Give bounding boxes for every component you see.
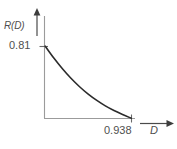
rd-curve xyxy=(45,46,131,118)
arrow-up-icon xyxy=(34,8,41,36)
x-tick-label: 0.938 xyxy=(104,125,132,136)
y-axis-label: R(D) xyxy=(4,21,24,31)
rate-distortion-chart: R(D) 0.81 0.938 D xyxy=(0,0,177,149)
y-tick-label: 0.81 xyxy=(9,40,30,51)
x-axis-label: D xyxy=(150,125,158,136)
